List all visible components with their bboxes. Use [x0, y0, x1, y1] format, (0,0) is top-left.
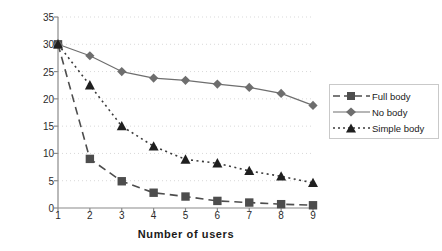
chart-legend: Full body No body Simple body: [329, 84, 439, 139]
data-point-marker: [117, 67, 126, 76]
legend-item-no-body: No body: [330, 104, 438, 120]
data-point-marker: [85, 80, 95, 89]
y-tick-label: 20: [34, 93, 54, 104]
data-point-marker: [117, 121, 127, 130]
data-point-marker: [213, 80, 222, 89]
y-tick-label: 35: [34, 12, 54, 23]
axes: [58, 17, 313, 208]
series-simple-body: [53, 39, 318, 187]
x-tick-label: 8: [273, 210, 289, 221]
x-tick-label: 6: [209, 210, 225, 221]
data-point-marker: [308, 101, 317, 110]
data-series-layer: [53, 39, 318, 209]
y-tick-label: 25: [34, 66, 54, 77]
data-point-marker: [213, 197, 221, 205]
legend-symbol-solid-diamond: [332, 105, 372, 119]
data-point-marker: [149, 141, 159, 150]
x-tick-label: 1: [50, 210, 66, 221]
legend-label-simple-body: Simple body: [372, 123, 424, 134]
y-tick-label: 30: [34, 39, 54, 50]
y-tick-label: 5: [34, 175, 54, 186]
data-point-marker: [85, 51, 94, 60]
series-full-body: [54, 40, 317, 209]
x-tick-label: 4: [146, 210, 162, 221]
x-tick-label: 2: [82, 210, 98, 221]
data-point-marker: [181, 192, 189, 200]
data-point-marker: [149, 74, 158, 83]
data-point-marker: [181, 76, 190, 85]
legend-item-simple-body: Simple body: [330, 120, 438, 136]
data-point-marker: [86, 155, 94, 163]
series-no-body: [53, 40, 317, 110]
legend-symbol-dashed-square: [332, 89, 372, 103]
data-point-marker: [245, 83, 254, 92]
legend-item-full-body: Full body: [330, 88, 438, 104]
legend-label-no-body: No body: [372, 107, 407, 118]
data-point-marker: [277, 89, 286, 98]
x-tick-label: 9: [305, 210, 321, 221]
data-point-marker: [277, 200, 285, 208]
data-point-marker: [118, 177, 126, 185]
chart-screenshot: 05101520253035 123456789 Frames/sec Numb…: [0, 0, 442, 251]
y-tick-label: 10: [34, 148, 54, 159]
x-axis-title: Number of users: [58, 228, 314, 240]
y-tick-label: 15: [34, 121, 54, 132]
data-point-marker: [245, 198, 253, 206]
x-tick-label: 7: [241, 210, 257, 221]
data-point-marker: [149, 189, 157, 197]
x-tick-label: 3: [114, 210, 130, 221]
legend-symbol-dotted-triangle: [332, 121, 372, 135]
legend-label-full-body: Full body: [372, 91, 411, 102]
data-point-marker: [181, 154, 191, 163]
data-point-marker: [308, 178, 318, 187]
x-tick-label: 5: [178, 210, 194, 221]
data-point-marker: [309, 201, 317, 209]
